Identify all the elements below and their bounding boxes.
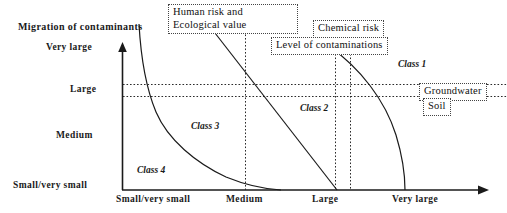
chemical-risk-callout: Chemical risk — [313, 20, 384, 38]
y-axis-arrowhead — [118, 42, 127, 52]
x-tick-medium: Medium — [226, 194, 263, 204]
class-4-label: Class 4 — [137, 165, 165, 175]
class-1-label: Class 1 — [398, 59, 426, 69]
class-2-label: Class 2 — [300, 103, 328, 113]
x-tick-large: Large — [312, 194, 338, 204]
y-axis-title: Migration of contaminants — [18, 21, 142, 32]
class-3-label: Class 3 — [191, 121, 219, 131]
class2-class1-boundary-curve — [330, 47, 405, 190]
human-risk-callout: Human risk and Ecological value — [168, 4, 298, 34]
level-of-contaminations-callout: Level of contaminations — [271, 37, 388, 55]
x-tick-very-large: Very large — [392, 194, 438, 204]
y-tick-medium: Medium — [56, 130, 93, 140]
human-risk-line-2: Ecological value — [173, 19, 293, 32]
soil-callout: Soil — [423, 98, 451, 116]
y-tick-large: Large — [70, 84, 96, 94]
y-tick-very-large: Very large — [46, 42, 92, 52]
x-tick-small-very-small: Small/very small — [116, 194, 190, 204]
human-risk-line-1: Human risk and — [173, 6, 293, 19]
y-tick-small-very-small: Small/very small — [13, 180, 87, 190]
x-axis-arrowhead — [478, 185, 489, 194]
